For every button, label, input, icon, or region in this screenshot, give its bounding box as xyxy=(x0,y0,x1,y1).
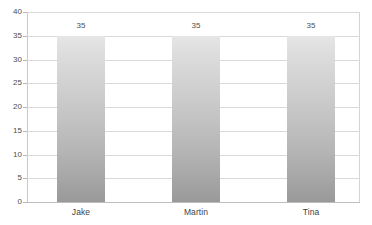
bar-value-label-tina: 35 xyxy=(287,22,335,30)
y-tick-label-20: 20 xyxy=(2,103,22,111)
plot-area xyxy=(27,12,360,202)
bar-value-label-jake: 35 xyxy=(57,22,105,30)
category-label-tina: Tina xyxy=(283,208,339,217)
y-tick-label-30: 30 xyxy=(2,56,22,64)
bar-value-label-martin: 35 xyxy=(172,22,220,30)
y-tick-label-5: 5 xyxy=(2,174,22,182)
y-tick-label-10: 10 xyxy=(2,151,22,159)
y-tick-label-0: 0 xyxy=(2,198,22,206)
y-tick-label-25: 25 xyxy=(2,79,22,87)
gridline-0-baseline xyxy=(27,202,360,203)
category-label-jake: Jake xyxy=(53,208,109,217)
bar-jake[interactable] xyxy=(57,36,105,202)
bar-martin[interactable] xyxy=(172,36,220,202)
category-label-martin: Martin xyxy=(168,208,224,217)
y-axis: 40 35 30 25 20 15 10 5 0 xyxy=(0,0,22,225)
gridline-40 xyxy=(27,12,360,13)
y-tick-label-40: 40 xyxy=(2,8,22,16)
y-tick-label-35: 35 xyxy=(2,32,22,40)
y-tick-label-15: 15 xyxy=(2,127,22,135)
bar-chart: 40 35 30 25 20 15 10 5 0 35 35 35 xyxy=(0,0,372,225)
bar-tina[interactable] xyxy=(287,36,335,202)
